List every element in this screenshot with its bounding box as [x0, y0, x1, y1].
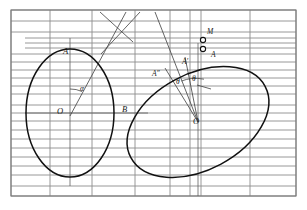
grid-horizontal-lines: [11, 10, 296, 196]
right-radius-long: [155, 12, 198, 122]
marker-m-circle-icon: [200, 37, 205, 42]
label-B-left: B: [122, 105, 127, 114]
label-A-double-prime: A″: [152, 70, 160, 78]
label-theta-1: θ: [176, 78, 180, 86]
label-A-left: A: [63, 47, 68, 56]
marker-a-circle-icon: [200, 46, 205, 51]
figure-canvas: [0, 0, 307, 210]
label-M: M: [207, 28, 213, 36]
label-A-right: A: [211, 51, 216, 59]
label-A-prime: A′: [182, 58, 188, 66]
geometry-figure: A O B α A″ A′ A O M θ θ: [0, 0, 307, 210]
label-O-right: O: [193, 117, 199, 126]
label-alpha-angle: α: [80, 85, 84, 93]
right-radius-OAdouble: [185, 57, 198, 122]
label-O-left: O: [57, 107, 63, 116]
label-theta-2: θ: [192, 75, 196, 83]
